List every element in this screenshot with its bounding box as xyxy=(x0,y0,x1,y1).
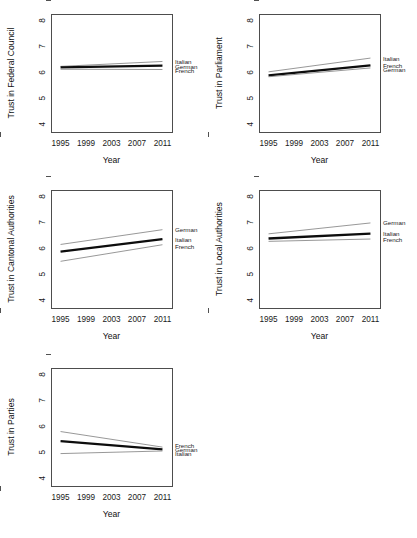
series-label-italian: Italian xyxy=(175,236,192,243)
y-tick-label: 4 xyxy=(247,298,256,303)
y-tick-label: 5 xyxy=(247,272,256,277)
x-tick-label: 2003 xyxy=(102,493,121,502)
y-tick-label: 4 xyxy=(39,476,48,481)
y-tick-label: 4 xyxy=(247,122,256,127)
y-tick-label: 8 xyxy=(39,372,48,377)
chart-panel-4: 8765419951999200320072011Trust in Local … xyxy=(208,176,417,355)
y-tick-label: 6 xyxy=(247,246,256,251)
x-tick-label: 2011 xyxy=(362,315,380,324)
series-line-german xyxy=(61,230,163,245)
series-line-italian xyxy=(61,239,163,252)
series-line-french xyxy=(61,245,163,262)
y-tick-label: 7 xyxy=(39,44,48,49)
x-tick-label: 1995 xyxy=(259,315,278,324)
x-tick-label: 2003 xyxy=(310,139,329,148)
series-label-french: French xyxy=(383,236,403,243)
x-tick-label: 2007 xyxy=(128,315,147,324)
series-line-french xyxy=(269,239,371,241)
series-line-german xyxy=(269,223,371,234)
y-tick-label: 6 xyxy=(39,424,48,429)
series-label-french: French xyxy=(175,67,195,74)
y-tick-label: 8 xyxy=(247,18,256,23)
y-tick-label: 4 xyxy=(39,122,48,127)
x-tick-label: 1995 xyxy=(259,139,278,148)
x-tick-label: 2003 xyxy=(310,315,329,324)
y-tick-label: 5 xyxy=(39,272,48,277)
y-tick-label: 5 xyxy=(39,96,48,101)
chart-panel-2: 8765419951999200320072011Trust in Parlia… xyxy=(208,0,417,179)
x-tick-label: 2007 xyxy=(128,139,147,148)
x-axis-title: Year xyxy=(103,155,121,165)
x-tick-label: 1995 xyxy=(51,139,70,148)
y-tick-label: 4 xyxy=(39,298,48,303)
y-axis-title: Trust in Federal Council xyxy=(6,27,16,118)
series-line-german xyxy=(61,441,163,449)
y-tick-label: 6 xyxy=(39,246,48,251)
y-tick-label: 7 xyxy=(39,220,48,225)
series-label-french: French xyxy=(175,243,195,250)
x-tick-label: 1995 xyxy=(51,315,70,324)
x-tick-label: 2007 xyxy=(336,315,355,324)
x-axis-title: Year xyxy=(103,331,121,341)
x-tick-label: 2011 xyxy=(362,139,380,148)
y-axis-title: Trust in Local Authorities xyxy=(214,202,224,296)
series-line-italian xyxy=(61,451,163,454)
chart-panel-1: 8765419951999200320072011Trust in Federa… xyxy=(0,0,209,179)
series-label-italian: Italian xyxy=(175,450,192,457)
y-tick-label: 5 xyxy=(247,96,256,101)
x-tick-label: 2003 xyxy=(102,139,121,148)
y-tick-label: 8 xyxy=(247,194,256,199)
plot-box xyxy=(260,191,381,309)
series-label-german: German xyxy=(383,66,406,73)
y-tick-label: 7 xyxy=(39,398,48,403)
plot-box xyxy=(52,369,173,487)
figure-canvas: 8765419951999200320072011Trust in Federa… xyxy=(0,0,417,538)
y-tick-label: 5 xyxy=(39,450,48,455)
plot-box xyxy=(52,15,173,133)
series-line-italian xyxy=(269,234,371,239)
x-axis-title: Year xyxy=(311,155,329,165)
series-label-german: German xyxy=(383,219,406,226)
x-axis-title: Year xyxy=(311,331,329,341)
x-tick-label: 2011 xyxy=(154,493,172,502)
x-tick-label: 2007 xyxy=(128,493,147,502)
x-tick-label: 2011 xyxy=(154,315,172,324)
y-axis-title: Trust in Cantonal Authorities xyxy=(6,195,16,303)
x-tick-label: 1999 xyxy=(285,139,304,148)
y-axis-title: Trust in Parliament xyxy=(214,36,224,108)
x-tick-label: 1999 xyxy=(285,315,304,324)
y-axis-title: Trust in Parties xyxy=(6,398,16,455)
x-tick-label: 1995 xyxy=(51,493,70,502)
x-tick-label: 1999 xyxy=(77,493,96,502)
x-axis-title: Year xyxy=(103,509,121,519)
series-line-french xyxy=(269,65,371,75)
x-tick-label: 2011 xyxy=(154,139,172,148)
x-tick-label: 1999 xyxy=(77,315,96,324)
y-tick-label: 8 xyxy=(39,194,48,199)
y-tick-label: 6 xyxy=(247,70,256,75)
y-tick-label: 7 xyxy=(247,220,256,225)
chart-panel-3: 8765419951999200320072011Trust in Canton… xyxy=(0,176,209,355)
x-tick-label: 2007 xyxy=(336,139,355,148)
series-label-german: German xyxy=(175,226,198,233)
series-label-italian: Italian xyxy=(383,55,400,62)
x-tick-label: 1999 xyxy=(77,139,96,148)
y-tick-label: 7 xyxy=(247,44,256,49)
y-tick-label: 8 xyxy=(39,18,48,23)
y-tick-label: 6 xyxy=(39,70,48,75)
chart-panel-5: 8765419951999200320072011Trust in Partie… xyxy=(0,354,209,533)
x-tick-label: 2003 xyxy=(102,315,121,324)
